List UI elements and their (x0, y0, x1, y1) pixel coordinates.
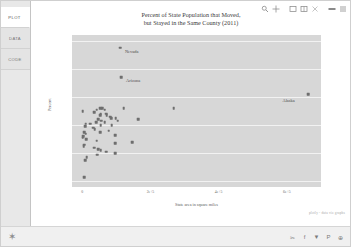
scatter-point[interactable] (111, 124, 114, 127)
facebook-icon[interactable]: f (301, 234, 308, 240)
scatter-point[interactable] (99, 124, 102, 127)
plotly-chart-app: PLOT DATA CODE (0, 0, 351, 247)
sidebar-tab-plot[interactable]: PLOT (0, 7, 30, 28)
scatter-point[interactable] (173, 107, 176, 110)
scatter-point[interactable] (100, 149, 103, 152)
scatter-point[interactable] (99, 107, 102, 110)
sidebar-tab-code[interactable]: CODE (0, 49, 30, 70)
scatter-point[interactable] (307, 93, 310, 96)
scatter-point[interactable] (81, 110, 84, 113)
scatter-point[interactable] (116, 120, 119, 123)
twitter-icon[interactable]: ▼ (313, 234, 320, 240)
scatter-point[interactable] (99, 131, 102, 134)
close-icon[interactable] (310, 4, 319, 13)
y-axis-label: Percent (47, 98, 52, 111)
sidebar: PLOT DATA CODE (0, 0, 31, 247)
x-tick-label: 0 (81, 190, 83, 194)
chart-title-line-2: but Stayed in the Same County (2011) (31, 19, 351, 27)
point-annotation: Arizona (126, 78, 140, 83)
star-icon[interactable]: ✶ (8, 232, 16, 242)
scatter-point[interactable] (114, 142, 117, 145)
scatter-point[interactable] (93, 128, 96, 131)
scatter-plot-area[interactable]: NevadaArizonaAlaska (72, 35, 321, 187)
scatter-point[interactable] (96, 139, 99, 142)
scatter-point[interactable] (105, 151, 108, 154)
plot-container: Percent of State Population that Moved, … (31, 0, 351, 220)
pinterest-icon[interactable]: P (325, 234, 332, 240)
scatter-point[interactable] (103, 108, 106, 111)
scatter-point[interactable] (122, 107, 125, 110)
x-tick-label: 4e+5 (215, 190, 223, 194)
zoom-icon[interactable] (260, 4, 269, 13)
scatter-point[interactable] (100, 120, 103, 123)
scatter-point[interactable] (96, 153, 99, 156)
lasso-select-icon[interactable] (299, 4, 308, 13)
scatter-point[interactable] (105, 114, 108, 117)
plot-toolbar (260, 4, 347, 13)
sidebar-tab-data[interactable]: DATA (0, 28, 30, 49)
scatter-point[interactable] (93, 111, 96, 114)
scatter-point[interactable] (99, 114, 102, 117)
box-select-icon[interactable] (288, 4, 297, 13)
scatter-point[interactable] (107, 129, 110, 132)
scatter-point[interactable] (81, 136, 84, 139)
gridline (72, 181, 321, 182)
scatter-point[interactable] (89, 122, 92, 125)
footer-bar: ✶ ✂ f ▼ P ⊕ (0, 226, 351, 247)
gridline (72, 153, 321, 154)
sidebar-tab-plot-label: PLOT (8, 15, 20, 20)
scatter-point[interactable] (85, 138, 88, 141)
scatter-point[interactable] (120, 76, 123, 79)
sidebar-tab-data-label: DATA (9, 36, 21, 41)
sidebar-tab-code-label: CODE (8, 57, 22, 62)
point-annotation: Nevada (125, 48, 138, 53)
scatter-point[interactable] (84, 125, 87, 128)
scatter-point[interactable] (114, 134, 117, 137)
point-annotation: Alaska (282, 98, 294, 103)
gridline (72, 125, 321, 126)
pan-move-icon[interactable] (271, 4, 280, 13)
google-plus-icon[interactable]: ⊕ (337, 234, 344, 241)
menu-icon[interactable] (338, 4, 347, 13)
scatter-point[interactable] (84, 159, 87, 162)
scatter-point[interactable] (103, 121, 106, 124)
x-axis-label: State area in square miles (72, 202, 321, 207)
watermark: plotly - data viz graphs (309, 211, 345, 215)
gridline (72, 69, 321, 70)
gridline (72, 41, 321, 42)
social-share-group: ✂ f ▼ P ⊕ (289, 234, 344, 241)
scatter-point[interactable] (84, 132, 87, 135)
scatter-point[interactable] (110, 117, 113, 120)
plot-card: Percent of State Population that Moved, … (31, 0, 351, 247)
x-tick-label: 6e+5 (283, 190, 291, 194)
scatter-point[interactable] (137, 118, 140, 121)
scatter-point[interactable] (119, 46, 122, 49)
link-icon[interactable]: ✂ (289, 234, 296, 241)
x-tick-label: 2e+5 (147, 190, 155, 194)
autoscale-icon[interactable] (327, 4, 336, 13)
scatter-point[interactable] (131, 141, 134, 144)
scatter-point[interactable] (114, 152, 117, 155)
scatter-point[interactable] (82, 145, 85, 148)
scatter-point[interactable] (83, 176, 86, 179)
scatter-point[interactable] (95, 121, 98, 124)
chart-title: Percent of State Population that Moved, … (31, 11, 351, 27)
scatter-point[interactable] (93, 146, 96, 149)
